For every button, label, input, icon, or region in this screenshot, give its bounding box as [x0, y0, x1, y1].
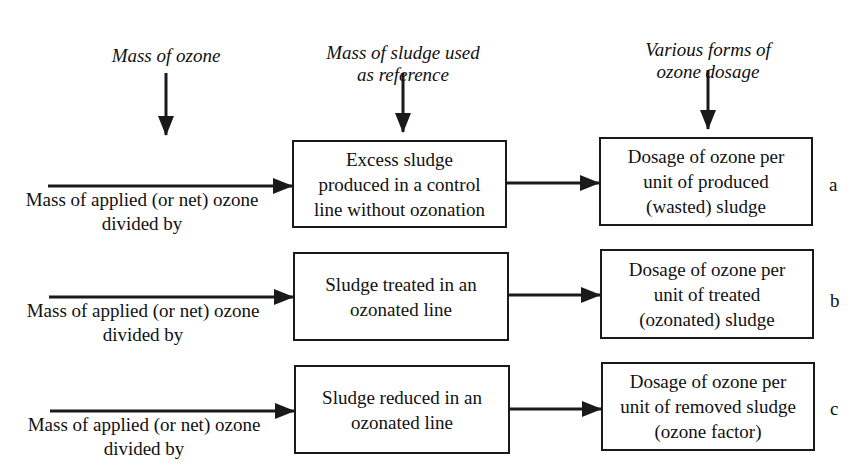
column-header-label: Various forms of ozone dosage [645, 39, 771, 82]
row-label-c: c [830, 398, 838, 420]
column-header-label: Mass of sludge used as reference [326, 42, 480, 85]
row-label-text: c [830, 398, 838, 419]
source-label: Mass of applied (or net) ozone divided b… [26, 189, 259, 234]
reference-box-a: Excess sludge produced in a control line… [292, 140, 507, 228]
column-header-ozone-dosage: Various forms of ozone dosage [618, 17, 798, 83]
source-label: Mass of applied (or net) ozone divided b… [28, 414, 261, 459]
dosage-box-c: Dosage of ozone per unit of removed slud… [601, 362, 815, 451]
row-label-text: a [829, 174, 837, 195]
source-label: Mass of applied (or net) ozone divided b… [27, 300, 260, 345]
source-text-c: Mass of applied (or net) ozone divided b… [16, 389, 272, 461]
row-label-text: b [830, 290, 840, 311]
column-header-mass-of-sludge: Mass of sludge used as reference [303, 20, 503, 86]
dosage-box-a: Dosage of ozone per unit of produced (wa… [599, 137, 813, 226]
row-label-a: a [829, 174, 837, 196]
source-text-b: Mass of applied (or net) ozone divided b… [15, 275, 271, 347]
dosage-label: Dosage of ozone per unit of removed slud… [620, 369, 796, 444]
column-header-mass-of-ozone: Mass of ozone [96, 45, 236, 67]
source-text-a: Mass of applied (or net) ozone divided b… [14, 164, 270, 236]
dosage-label: Dosage of ozone per unit of treated (ozo… [629, 257, 786, 332]
column-header-label: Mass of ozone [112, 45, 221, 66]
dosage-box-b: Dosage of ozone per unit of treated (ozo… [600, 249, 814, 339]
reference-label: Sludge reduced in an ozonated line [322, 385, 482, 435]
reference-label: Excess sludge produced in a control line… [314, 147, 485, 222]
reference-box-b: Sludge treated in an ozonated line [293, 252, 509, 341]
row-label-b: b [830, 290, 840, 312]
reference-label: Sludge treated in an ozonated line [325, 272, 476, 322]
dosage-label: Dosage of ozone per unit of produced (wa… [628, 144, 785, 219]
reference-box-c: Sludge reduced in an ozonated line [294, 365, 510, 454]
